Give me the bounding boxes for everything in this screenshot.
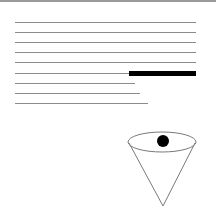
- cone-icon: [128, 132, 196, 206]
- redaction-bar: [129, 71, 196, 76]
- diagram-canvas: [0, 0, 216, 217]
- text-lines: [15, 23, 196, 104]
- dot-icon: [157, 135, 169, 147]
